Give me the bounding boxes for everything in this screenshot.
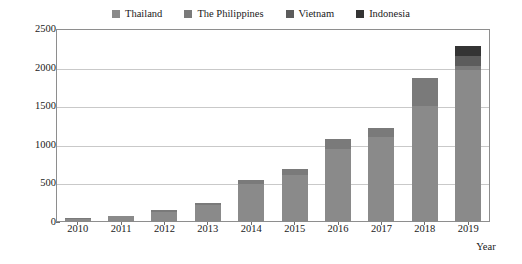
y-tick-label: 2500 <box>12 24 56 35</box>
x-tick-label: 2010 <box>65 224 91 235</box>
legend-label: Vietnam <box>299 9 335 20</box>
legend-label: Indonesia <box>369 9 410 20</box>
x-tick-label: 2015 <box>282 224 308 235</box>
plot-area <box>56 29 490 222</box>
x-tick-label: 2018 <box>412 224 438 235</box>
y-axis-ticks: 05001000150020002500 <box>0 29 56 222</box>
x-tick-label: 2011 <box>108 224 134 235</box>
x-tick-label: 2012 <box>151 224 177 235</box>
chart-legend: ThailandThe PhilippinesVietnamIndonesia <box>0 9 522 20</box>
x-axis-labels: 2010201120122013201420152016201720182019 <box>56 224 490 240</box>
x-tick-label: 2013 <box>195 224 221 235</box>
gridline <box>57 184 489 185</box>
legend-item-the-philippines: The Philippines <box>184 9 263 20</box>
gridline <box>57 69 489 70</box>
legend-label: The Philippines <box>197 9 263 20</box>
legend-swatch-icon <box>356 10 364 18</box>
legend-item-indonesia: Indonesia <box>356 9 410 20</box>
gridline <box>57 107 489 108</box>
y-tick-label: 1500 <box>12 101 56 112</box>
y-tick-label: 2000 <box>12 62 56 73</box>
x-tick-label: 2014 <box>238 224 264 235</box>
x-tick-label: 2017 <box>368 224 394 235</box>
x-axis-title-text: Year <box>476 241 495 252</box>
x-tick-label: 2019 <box>455 224 481 235</box>
gridline <box>57 146 489 147</box>
legend-swatch-icon <box>112 10 120 18</box>
legend-item-vietnam: Vietnam <box>286 9 335 20</box>
chart-figure: ThailandThe PhilippinesVietnamIndonesia … <box>0 0 522 264</box>
y-tick-label: 500 <box>12 178 56 189</box>
y-tick-label: 0 <box>12 217 56 228</box>
x-tick-label: 2016 <box>325 224 351 235</box>
y-tick-label: 1000 <box>12 140 56 151</box>
legend-swatch-icon <box>286 10 294 18</box>
legend-label: Thailand <box>125 9 162 20</box>
legend-swatch-icon <box>184 10 192 18</box>
x-axis-title: Year <box>456 241 516 252</box>
legend-item-thailand: Thailand <box>112 9 162 20</box>
